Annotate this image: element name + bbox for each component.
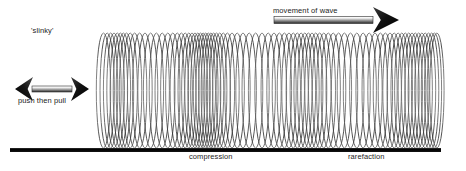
slinky-coil (110, 33, 124, 148)
movement-arrow-head (373, 7, 399, 33)
push-pull-arrow-shaft (32, 86, 72, 92)
rarefaction-label: rarefaction (348, 153, 385, 161)
slinky-label: 'slinky' (31, 27, 53, 35)
slinky-coil (317, 33, 331, 148)
slinky-coil-group (96, 33, 444, 148)
slinky-coil (286, 33, 300, 148)
slinky-coil (383, 33, 397, 148)
slinky-coil (418, 33, 432, 148)
slinky-coil (170, 33, 184, 148)
slinky-coil (149, 33, 163, 148)
slinky-coil (143, 33, 157, 148)
push-pull-arrow-head-right (71, 77, 89, 101)
diagram-canvas (0, 0, 466, 171)
slinky-coil (421, 33, 435, 148)
movement-arrow-shaft (274, 17, 373, 24)
push-then-pull-label: push then pull (18, 97, 66, 105)
slinky-wave-diagram: 'slinky' push then pull movement of wave… (0, 0, 466, 171)
compression-label: compression (189, 153, 233, 161)
movement-of-wave-label: movement of wave (273, 7, 338, 15)
